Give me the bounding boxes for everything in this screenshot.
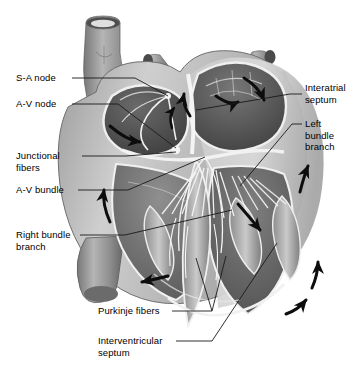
- label-left-bundle-branch: Leftbundlebranch: [305, 118, 335, 153]
- label-junctional-fibers-line1: Junctional: [16, 150, 60, 161]
- label-interatrial-septum: Interatrialseptum: [305, 82, 346, 105]
- left-atrium: [190, 62, 286, 151]
- inferior-vena-cava: [77, 236, 124, 303]
- label-av-bundle: A-V bundle: [16, 184, 64, 196]
- label-interventricular-septum-line2: septum: [98, 347, 130, 358]
- right-atrium: [103, 85, 188, 156]
- arrow-lv-curve-1: [312, 262, 318, 288]
- label-junctional-fibers: Junctionalfibers: [16, 150, 60, 173]
- label-purkinje-fibers: Purkinje fibers: [98, 305, 160, 317]
- label-sa-node: S-A node: [16, 72, 56, 84]
- heart-body: [58, 16, 323, 326]
- label-right-bundle-branch-line2: branch: [16, 241, 46, 252]
- label-interatrial-septum-line1: Interatrial: [305, 82, 346, 93]
- heart-conduction-diagram: S-A node A-V node Junctionalfibers A-V b…: [0, 0, 363, 368]
- label-interventricular-septum: Interventricularseptum: [98, 335, 162, 358]
- label-left-bundle-branch-line3: branch: [305, 141, 335, 152]
- label-interatrial-septum-line2: septum: [305, 94, 337, 105]
- arrow-lv-curve-2: [286, 300, 306, 314]
- label-left-bundle-branch-line1: Left: [305, 118, 321, 129]
- label-av-node: A-V node: [16, 98, 56, 110]
- label-junctional-fibers-line2: fibers: [16, 162, 40, 173]
- label-right-bundle-branch: Right bundlebranch: [16, 229, 71, 252]
- label-right-bundle-branch-line1: Right bundle: [16, 229, 71, 240]
- label-interventricular-septum-line1: Interventricular: [98, 335, 162, 346]
- label-left-bundle-branch-line2: bundle: [305, 130, 334, 141]
